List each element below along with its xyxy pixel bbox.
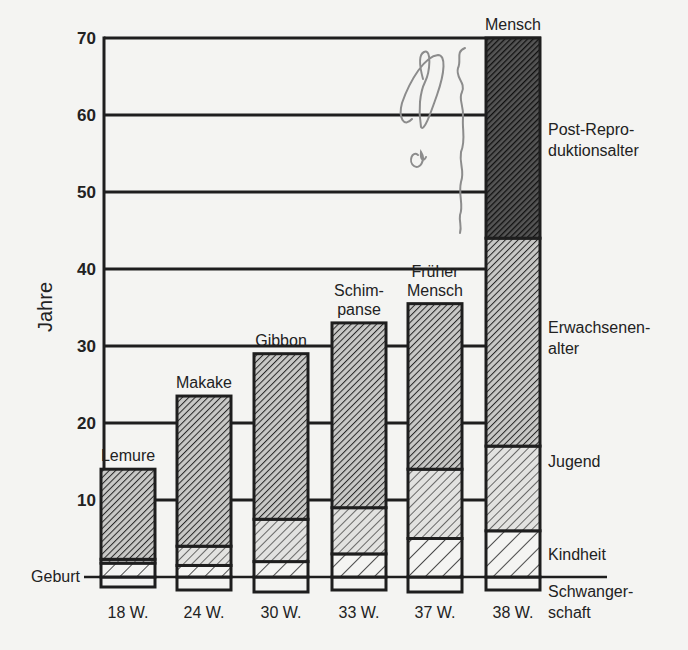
bar-lemure [101,469,155,587]
gestation-label: 18 W. [108,604,149,621]
y-tick-label: 20 [77,414,96,433]
segment-jugend [177,546,231,565]
segment-erwachsenenalter [101,469,155,559]
y-tick-label: 70 [77,29,96,48]
segment-erwachsenenalter [332,323,386,508]
gestation-label: 30 W. [261,604,302,621]
category-label: Makake [176,374,232,391]
stage-label: alter [548,340,580,357]
bar-früher-mensch [408,304,462,592]
category-label: Schim- [334,282,384,299]
segment-jugend [332,508,386,554]
y-tick-label: 50 [77,183,96,202]
bar-makake [177,396,231,590]
segment-kindheit [254,562,308,577]
segment-erwachsenenalter [254,354,308,520]
category-label: Mensch [485,16,541,33]
gridlines [104,38,541,500]
segment-jugend [254,519,308,561]
segment-schwangerschaft [254,577,308,592]
segment-jugend [486,446,540,531]
segment-post-reproduktionsalter [486,38,540,238]
segment-schwangerschaft [332,577,386,590]
category-label: Früher [411,263,459,280]
stage-label: schaft [548,604,591,621]
category-label: panse [337,301,381,318]
category-label: Mensch [407,282,463,299]
stage-label: duktionsalter [548,142,639,159]
birth-label: Geburt [31,568,80,585]
segment-schwangerschaft [177,577,231,590]
category-label: Gibbon [255,332,307,349]
y-tick-label: 30 [77,337,96,356]
segment-schwangerschaft [486,577,540,590]
lifespan-chart: 10203040506070GeburtJahre Lemure18 W.Mak… [0,0,688,650]
stage-label: Jugend [548,453,601,470]
segment-jugend [408,469,462,538]
gestation-label: 38 W. [493,604,534,621]
segment-kindheit [177,565,231,577]
pencil-marks [401,48,465,233]
bars [101,38,540,592]
segment-kindheit [101,563,155,577]
stage-label: Kindheit [548,546,606,563]
gestation-label: 24 W. [184,604,225,621]
gestation-label: 33 W. [339,604,380,621]
stage-label: Schwanger- [548,583,633,600]
segment-schwangerschaft [408,577,462,592]
segment-kindheit [486,531,540,577]
y-tick-label: 10 [77,491,96,510]
y-tick-label: 60 [77,106,96,125]
segment-erwachsenenalter [486,238,540,446]
stage-label: Post-Repro- [548,121,634,138]
segment-erwachsenenalter [177,396,231,546]
segment-erwachsenenalter [408,304,462,470]
bar-mensch [486,38,540,590]
stage-label: Erwachsenen- [548,319,650,336]
segment-kindheit [408,539,462,578]
bar-gibbon [254,354,308,592]
segment-kindheit [332,554,386,577]
y-axis-title: Jahre [34,282,56,332]
bar-schimpanse [332,323,386,590]
gestation-label: 37 W. [415,604,456,621]
category-label: Lemure [101,447,155,464]
y-tick-label: 40 [77,260,96,279]
